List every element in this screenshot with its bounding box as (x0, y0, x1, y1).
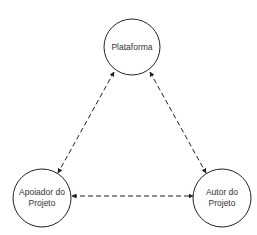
edge-plataforma-autor (150, 72, 206, 173)
node-plataforma: Plataforma (104, 19, 160, 75)
node-label-line-1: Autor do (206, 187, 238, 197)
relationship-diagram: Plataforma Apoiador do Projeto Autor do … (0, 0, 257, 235)
node-apoiador-do-projeto: Apoiador do Projeto (13, 169, 71, 227)
edge-plataforma-apoiador (58, 72, 114, 173)
node-autor-do-projeto: Autor do Projeto (193, 169, 251, 227)
node-label-line-2: Projeto (209, 198, 236, 208)
node-label-line-2: Projeto (29, 198, 56, 208)
node-label: Plataforma (111, 42, 152, 52)
node-label-line-1: Apoiador do (19, 187, 65, 197)
